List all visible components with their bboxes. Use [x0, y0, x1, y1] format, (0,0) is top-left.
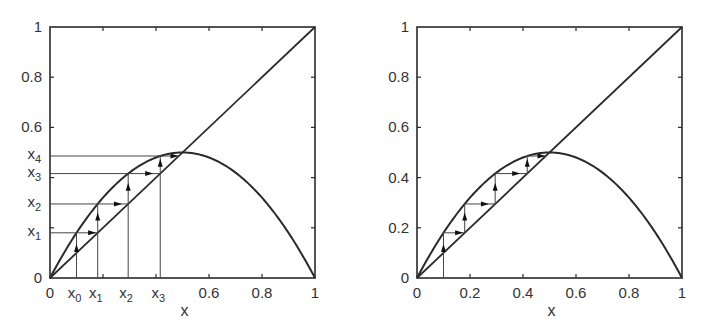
cobweb-figure: 10.80.60x1x2x3x40x0x1x2x30.60.81x 000.20… [0, 0, 716, 331]
x-iterate-label: x0 [68, 284, 82, 304]
arrow-right-icon [145, 171, 153, 176]
arrow-right-icon [481, 201, 489, 206]
x-tick-label: 0 [46, 284, 54, 301]
arrow-up-icon [95, 212, 100, 220]
x-tick-label: 0.8 [619, 284, 640, 301]
x-axis-label: x [181, 302, 189, 319]
y-tick-label: 0.6 [21, 118, 42, 135]
y-tick-label: 0 [34, 269, 42, 286]
x-iterate-label: x2 [119, 284, 133, 304]
x-tick-label: 0.8 [252, 284, 273, 301]
logistic-curve [417, 153, 682, 279]
x-tick-label: 0.4 [513, 284, 534, 301]
y-tick-label: 1 [34, 18, 42, 35]
x-tick-label: 0 [413, 284, 421, 301]
arrow-up-icon [158, 159, 163, 167]
x-tick-label: 0.2 [460, 284, 481, 301]
arrow-right-icon [512, 171, 520, 176]
x-tick-label: 0.6 [566, 284, 587, 301]
y-iterate-label: x2 [27, 193, 41, 213]
arrow-up-icon [493, 183, 498, 191]
y-tick-label: 1 [401, 18, 409, 35]
x-tick-label: 1 [311, 284, 319, 301]
x-iterate-label: x3 [151, 284, 165, 304]
logistic-curve [50, 153, 315, 279]
y-tick-label: 0.6 [388, 118, 409, 135]
arrow-up-icon [462, 212, 467, 220]
x-tick-label: 1 [678, 284, 686, 301]
y-tick-label: 0.4 [388, 169, 409, 186]
y-tick-label: 0.8 [21, 68, 42, 85]
arrow-right-icon [114, 201, 122, 206]
left-cobweb-plot: 10.80.60x1x2x3x40x0x1x2x30.60.81x [21, 18, 319, 319]
y-tick-label: 0 [401, 269, 409, 286]
y-iterate-label: x1 [27, 222, 41, 242]
right-cobweb-plot: 000.20.20.40.40.60.60.80.811x [388, 18, 686, 319]
x-axis-label: x [548, 302, 556, 319]
arrow-up-icon [525, 159, 530, 167]
y-tick-label: 0.2 [388, 219, 409, 236]
x-tick-label: 0.6 [199, 284, 220, 301]
arrow-up-icon [441, 244, 446, 252]
x-iterate-label: x1 [89, 284, 103, 304]
y-tick-label: 0.8 [388, 68, 409, 85]
arrow-up-icon [126, 183, 131, 191]
arrow-up-icon [74, 244, 79, 252]
y-iterate-label: x4 [27, 145, 41, 165]
y-iterate-label: x3 [27, 163, 41, 183]
